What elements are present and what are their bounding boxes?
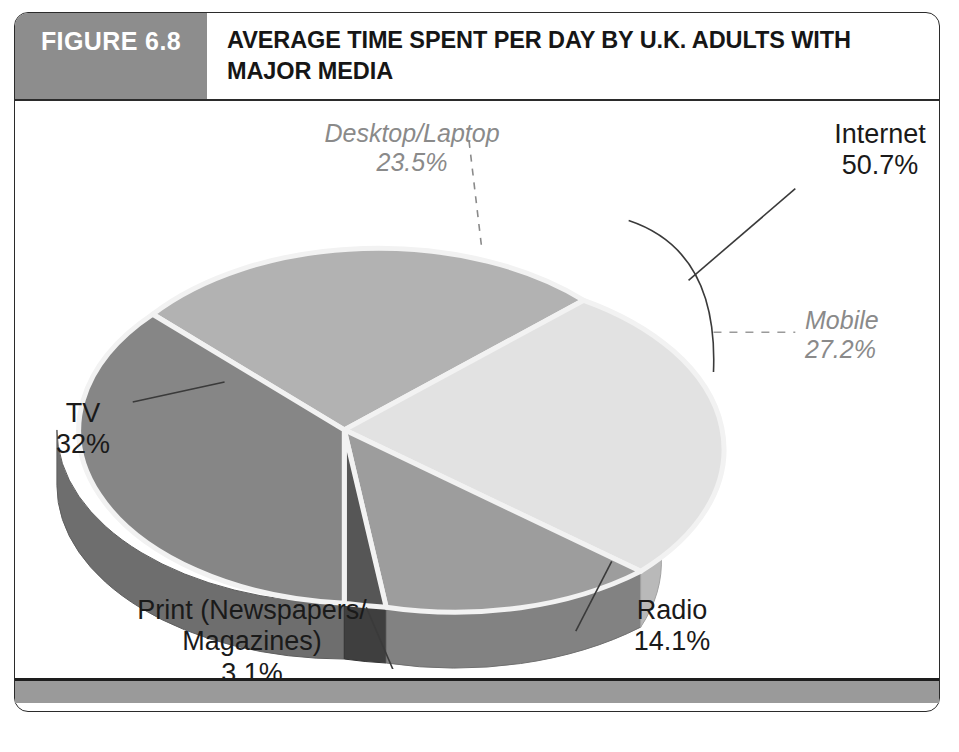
pie-chart-svg: [15, 101, 939, 669]
callout-desktop-laptop: Desktop/Laptop 23.5%: [307, 119, 517, 177]
figure-frame: FIGURE 6.8 AVERAGE TIME SPENT PER DAY BY…: [14, 12, 940, 712]
callout-radio: Radio 14.1%: [582, 595, 762, 658]
callout-tv: TV 32%: [23, 398, 143, 461]
figure-number-label: FIGURE 6.8: [41, 27, 181, 56]
callout-internet: Internet 50.7%: [805, 119, 955, 182]
leader-line-internet: [689, 189, 796, 281]
callout-print: Print (Newspapers/ Magazines) 3.1%: [117, 595, 387, 689]
figure-number-block: FIGURE 6.8: [15, 13, 207, 99]
footer-bar: [15, 681, 939, 703]
pie-top-face: [79, 248, 724, 612]
callout-mobile: Mobile 27.2%: [805, 306, 955, 364]
pie-chart-area: Desktop/Laptop 23.5% Internet 50.7% Mobi…: [15, 101, 939, 669]
figure-header: FIGURE 6.8 AVERAGE TIME SPENT PER DAY BY…: [15, 13, 939, 99]
figure-title: AVERAGE TIME SPENT PER DAY BY U.K. ADULT…: [227, 25, 915, 88]
